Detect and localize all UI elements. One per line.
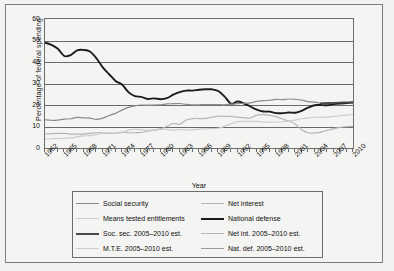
y-axis-tick-label: 60 — [18, 15, 40, 22]
legend-swatch-icon — [201, 218, 224, 220]
chart-legend: Social securityMeans tested entitlements… — [72, 191, 323, 258]
chart-svg — [45, 19, 353, 148]
legend-label: National defense — [228, 215, 281, 222]
legend-swatch-icon — [201, 248, 224, 249]
legend-item: National defense — [201, 211, 326, 226]
plot-area — [44, 18, 354, 149]
legend-item: Net interest — [201, 196, 326, 211]
chart-figure: Percentage of federal spending 605040302… — [0, 0, 394, 271]
series-line — [321, 102, 353, 103]
legend-column-left: Social securityMeans tested entitlements… — [76, 196, 201, 256]
legend-swatch-icon — [76, 233, 99, 235]
legend-column-right: Net interestNational defenseNet int. 200… — [201, 196, 326, 256]
legend-item: Net int. 2005–2010 est. — [201, 226, 326, 241]
legend-item: M.T.E. 2005–2010 est. — [76, 241, 201, 256]
y-axis-tick-label: 0 — [18, 144, 40, 151]
x-axis-title: Year — [6, 181, 392, 190]
series-lines — [45, 19, 353, 148]
legend-item: Nat. def. 2005–2010 est. — [201, 241, 326, 256]
legend-label: Social security — [103, 200, 148, 207]
legend-swatch-icon — [76, 218, 99, 219]
legend-label: Nat. def. 2005–2010 est. — [228, 245, 305, 252]
legend-item: Soc. sec. 2005–2010 est. — [76, 226, 201, 241]
legend-swatch-icon — [201, 233, 224, 234]
legend-label: Net int. 2005–2010 est. — [228, 230, 300, 237]
legend-swatch-icon — [201, 203, 224, 204]
y-axis-tick-label: 20 — [18, 101, 40, 108]
y-axis-tick-label: 30 — [18, 79, 40, 86]
legend-item: Means tested entitlements — [76, 211, 201, 226]
legend-label: Means tested entitlements — [103, 215, 185, 222]
y-axis-tick-label: 10 — [18, 122, 40, 129]
y-axis-title: Percentage of federal spending — [34, 5, 43, 135]
legend-label: Soc. sec. 2005–2010 est. — [103, 230, 182, 237]
legend-swatch-icon — [76, 248, 99, 249]
series-line — [45, 99, 321, 120]
series-line — [45, 43, 321, 114]
figure-frame: Percentage of federal spending 605040302… — [5, 4, 383, 263]
series-line — [321, 126, 353, 132]
y-axis-tick-label: 50 — [18, 36, 40, 43]
legend-swatch-icon — [76, 203, 99, 204]
legend-label: Net interest — [228, 200, 264, 207]
y-axis-tick-label: 40 — [18, 58, 40, 65]
x-axis-tick-labels: 1962196519681971197419771980198319861989… — [44, 151, 356, 181]
series-line — [45, 117, 321, 139]
series-line — [321, 114, 353, 117]
legend-item: Social security — [76, 196, 201, 211]
legend-label: M.T.E. 2005–2010 est. — [103, 245, 173, 252]
